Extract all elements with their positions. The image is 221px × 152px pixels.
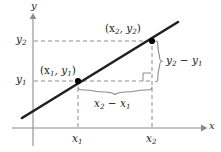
y-axis-label: y [31,1,37,11]
rise-brace [156,41,163,82]
point-marker-1 [75,78,81,84]
rise-label: y2 − y1 [166,55,202,66]
run-label: x2 − x1 [94,98,130,109]
y-axis [30,13,37,146]
point-label-1: (x1, y1) [40,65,76,76]
x-axis-arrowhead [201,125,208,132]
right-angle-marker [143,73,151,81]
x-tick-label-x1: x1 [72,133,82,144]
slope-diagram-figure: y x y2 y1 x1 x2 (x1, y1) (x2, y2) y2 − y… [0,0,221,152]
x-tick-label-x2: x2 [146,133,156,144]
point-label-2: (x2, y2) [105,23,141,34]
x-axis-label: x [209,121,215,131]
y-tick-label-y1: y1 [16,74,26,85]
point-marker-2 [149,38,155,44]
run-brace [78,87,152,95]
x-axis [12,125,208,132]
y-axis-arrowhead [30,13,37,19]
y-tick-label-y2: y2 [16,34,26,45]
